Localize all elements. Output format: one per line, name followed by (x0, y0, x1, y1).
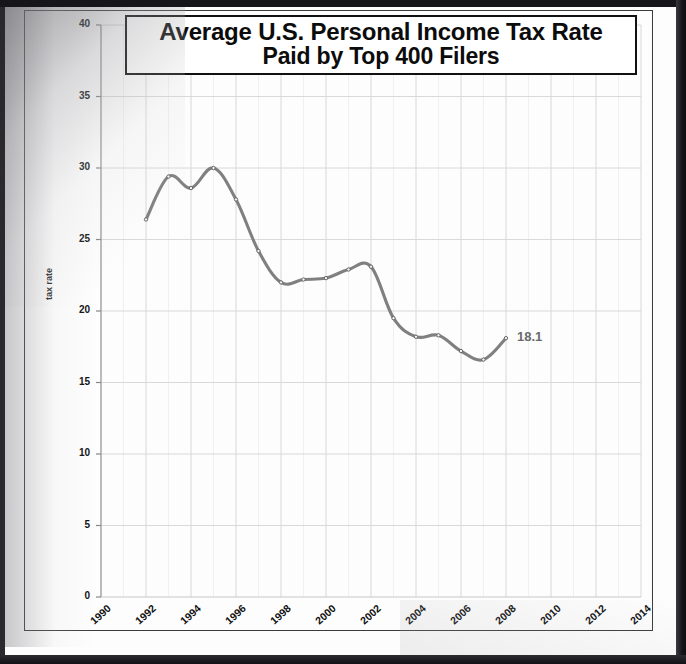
y-axis-tick-label: 20 (60, 304, 90, 315)
endpoint-value-label: 18.1 (517, 329, 542, 344)
scanned-page: Average U.S. Personal Income Tax Rate Pa… (0, 0, 686, 664)
y-axis-tick-label: 15 (60, 376, 90, 387)
y-axis-title: tax rate (44, 286, 54, 300)
y-axis-tick-label: 35 (60, 90, 90, 101)
chart-title-line-1: Average U.S. Personal Income Tax Rate (131, 20, 631, 45)
axis-ticks (96, 25, 101, 597)
y-axis-tick-label: 5 (60, 519, 90, 530)
scan-frame-top (0, 0, 686, 7)
y-axis-tick-label: 30 (60, 161, 90, 172)
y-axis-tick-label: 10 (60, 447, 90, 458)
y-axis-tick-label: 0 (60, 590, 90, 601)
scan-frame-bottom (0, 655, 686, 664)
chart-title-box: Average U.S. Personal Income Tax Rate Pa… (125, 15, 637, 75)
chart-title-line-2: Paid by Top 400 Filers (131, 45, 631, 69)
scan-frame-left (0, 7, 5, 664)
chart-plot (0, 0, 686, 664)
gridlines (101, 25, 641, 597)
scan-frame-right (676, 0, 686, 664)
y-axis-tick-label: 25 (60, 233, 90, 244)
y-axis-tick-label: 40 (60, 18, 90, 29)
